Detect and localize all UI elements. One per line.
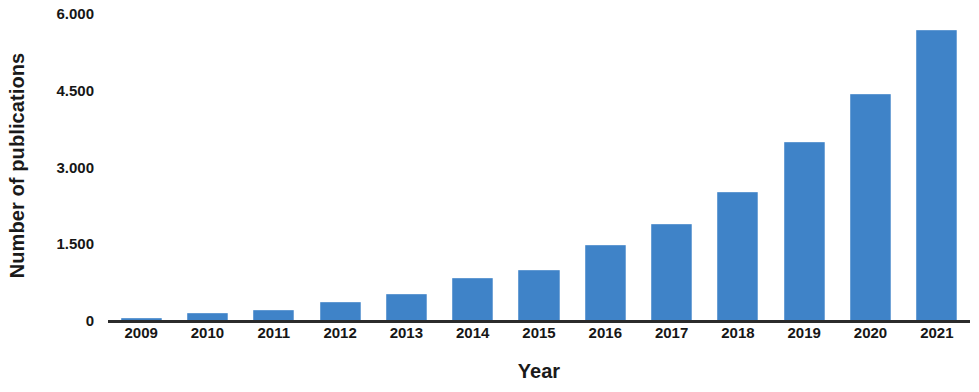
x-axis-tick-label: 2019 xyxy=(788,324,821,341)
bar xyxy=(850,94,891,320)
bar xyxy=(651,224,692,320)
y-axis-title-text: Number of publications xyxy=(7,52,30,278)
x-axis-tick-label: 2017 xyxy=(655,324,688,341)
x-axis-tick-labels: 2009201020112012201320142015201620172018… xyxy=(108,324,970,348)
bar xyxy=(452,278,493,320)
x-axis-tick-label: 2016 xyxy=(589,324,622,341)
bar xyxy=(585,245,626,320)
bar xyxy=(187,313,228,320)
y-axis-tick-label: 1.500 xyxy=(56,235,94,252)
x-axis-tick-label: 2010 xyxy=(191,324,224,341)
bar xyxy=(916,30,957,320)
y-axis-tick-label: 4.500 xyxy=(56,81,94,98)
bar-chart: Number of publications 01.5003.0004.5006… xyxy=(0,0,979,392)
x-axis-title: Year xyxy=(108,360,970,383)
x-axis-tick-label: 2009 xyxy=(124,324,157,341)
plot-area xyxy=(108,13,970,320)
x-axis-line xyxy=(108,320,970,323)
bar xyxy=(320,302,361,320)
x-axis-tick-label: 2018 xyxy=(721,324,754,341)
y-axis-tick-label: 3.000 xyxy=(56,158,94,175)
x-axis-tick-label: 2012 xyxy=(323,324,356,341)
bar xyxy=(717,192,758,320)
y-axis-tick-label: 0 xyxy=(86,312,94,329)
y-axis-tick-labels: 01.5003.0004.5006.000 xyxy=(36,0,104,330)
bar xyxy=(386,294,427,320)
bar xyxy=(518,270,559,320)
x-axis-tick-label: 2013 xyxy=(390,324,423,341)
y-axis-tick-label: 6.000 xyxy=(56,5,94,22)
bar xyxy=(253,310,294,320)
x-axis-tick-label: 2014 xyxy=(456,324,489,341)
x-axis-tick-label: 2011 xyxy=(257,324,290,341)
y-axis-title: Number of publications xyxy=(0,0,36,330)
x-axis-tick-label: 2021 xyxy=(920,324,953,341)
x-axis-tick-label: 2015 xyxy=(522,324,555,341)
x-axis-tick-label: 2020 xyxy=(854,324,887,341)
bar xyxy=(784,142,825,320)
